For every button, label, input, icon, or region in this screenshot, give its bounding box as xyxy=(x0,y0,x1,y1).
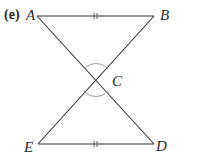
point-label-a: A xyxy=(26,8,35,23)
point-label-e: E xyxy=(24,140,33,155)
angle-arc-top xyxy=(84,64,108,69)
point-label-b: B xyxy=(160,8,169,23)
diagram-canvas xyxy=(0,0,206,161)
point-label-d: D xyxy=(156,139,167,154)
point-label-c: C xyxy=(112,74,122,89)
angle-arc-bottom xyxy=(84,91,108,96)
